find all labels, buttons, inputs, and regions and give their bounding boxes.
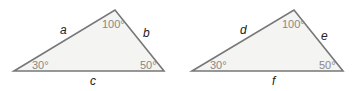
similar-triangles-diagram: a b c 30° 100° 50° d e f 30° 100° 50° <box>0 0 352 91</box>
angle-top-label: 100° <box>102 18 125 30</box>
triangle-1: a b c 30° 100° 50° <box>14 10 164 88</box>
angle-left-label: 30° <box>32 59 49 71</box>
triangle-2: d e f 30° 100° 50° <box>192 10 343 88</box>
side-c-label: c <box>90 74 96 88</box>
angle-right-label: 50° <box>319 59 336 71</box>
angle-top-label: 100° <box>282 18 305 30</box>
side-a-label: a <box>60 23 67 37</box>
angle-left-label: 30° <box>210 59 227 71</box>
side-b-label: b <box>143 26 150 40</box>
angle-right-label: 50° <box>140 59 157 71</box>
side-f-label: f <box>272 74 277 88</box>
side-d-label: d <box>240 23 247 37</box>
side-e-label: e <box>321 29 328 43</box>
